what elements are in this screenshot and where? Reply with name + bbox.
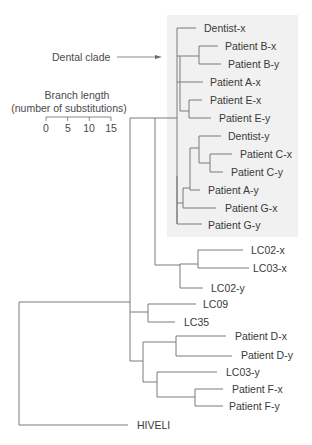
arrow-right-icon <box>117 55 162 59</box>
tip-label: Patient D-y <box>241 349 294 361</box>
tip-label: Patient B-x <box>225 40 277 52</box>
tip-label: Patient B-y <box>228 58 280 70</box>
scale-bar <box>46 117 111 121</box>
scale-tick-5: 5 <box>65 122 71 134</box>
tip-label: Patient C-y <box>231 166 284 178</box>
phylogenetic-tree: Dental clade Branch length (number of su… <box>0 0 312 445</box>
tip-label: LC03-y <box>226 366 261 378</box>
tip-label: Patient G-y <box>208 219 261 231</box>
tip-label: LC02-y <box>211 282 246 294</box>
tip-label: Patient D-x <box>235 330 288 342</box>
tip-label: Patient F-y <box>229 400 281 412</box>
tip-label: Patient E-x <box>210 94 262 106</box>
tip-label: Patient A-x <box>210 76 262 88</box>
dental-clade-label: Dental clade <box>52 51 111 63</box>
tip-label: Dentist-x <box>204 22 246 34</box>
tip-label-outgroup: HIVELI <box>137 419 170 431</box>
tip-label: LC03-x <box>253 262 288 274</box>
tip-label: Patient C-x <box>240 148 293 160</box>
tip-label: Patient F-x <box>232 383 284 395</box>
scale-bar-title: Branch length <box>45 89 110 101</box>
tip-label: LC09 <box>203 298 228 310</box>
tip-label: Patient G-x <box>225 202 278 214</box>
tip-label: Patient A-y <box>208 184 260 196</box>
scale-tick-0: 0 <box>43 122 49 134</box>
tip-label: Dentist-y <box>228 130 270 142</box>
tip-label: LC35 <box>184 316 209 328</box>
scale-tick-10: 10 <box>83 122 95 134</box>
scale-tick-15: 15 <box>105 122 117 134</box>
tip-label: LC02-x <box>251 244 286 256</box>
tip-label: Patient E-y <box>219 112 271 124</box>
scale-bar-subtitle: (number of substitutions) <box>11 102 127 114</box>
